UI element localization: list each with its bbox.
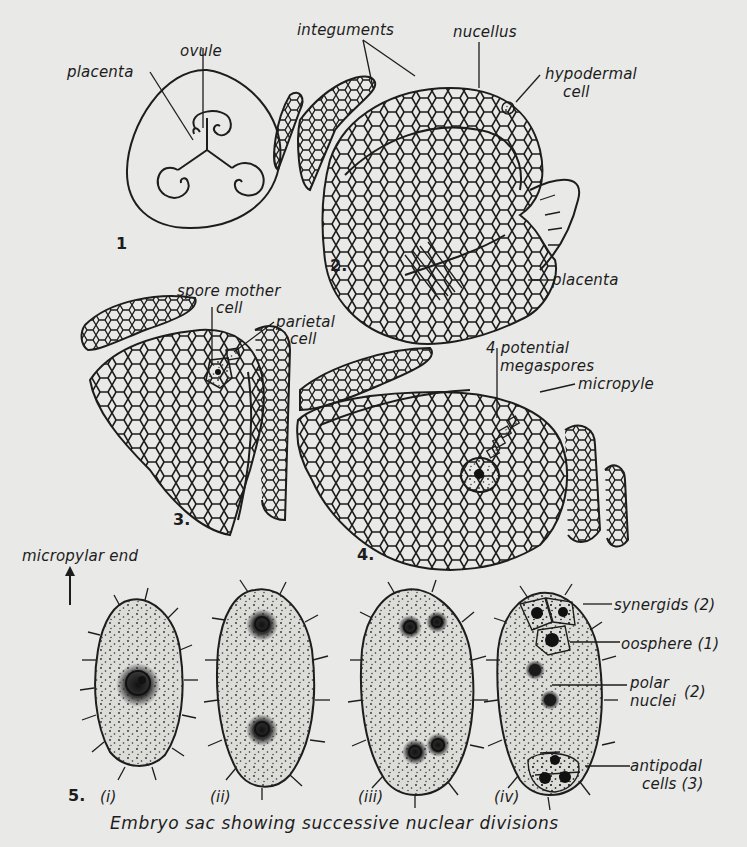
label-micropyle: micropyle: [578, 376, 654, 392]
label-integuments: integuments: [297, 22, 394, 38]
stage-label-iii: (iii): [358, 789, 383, 805]
stage-label-i: (i): [100, 789, 116, 805]
embryo-sac-stage-2: [204, 580, 330, 800]
figure-drawings: [0, 0, 747, 847]
label-placenta-2: placenta: [552, 272, 619, 288]
label-synergids: synergids (2): [614, 597, 715, 613]
label-parietal-cell-line2: cell: [290, 331, 317, 347]
embryo-sac-stage-4: [484, 584, 630, 810]
label-oosphere: oosphere (1): [621, 636, 719, 652]
panel-number-1: 1: [116, 236, 127, 252]
panel-number-4: 4.: [357, 547, 375, 563]
panel-number-2: 2.: [330, 258, 348, 274]
label-hypodermal-cell-line1: hypodermal: [545, 66, 637, 82]
label-parietal-cell-line1: parietal: [276, 314, 335, 330]
embryo-sac-stage-1: [80, 588, 198, 780]
panel-number-5: 5.: [68, 788, 86, 804]
label-hypodermal-cell-line2: cell: [563, 84, 590, 100]
panel-1-ovary-section: [127, 48, 280, 228]
label-potential-megaspores-line2: megaspores: [500, 358, 594, 374]
embryo-sac-stage-3: [348, 580, 488, 808]
label-polar-nuclei-count: (2): [684, 684, 706, 700]
panel-number-3: 3.: [173, 512, 191, 528]
label-ovule: ovule: [180, 43, 222, 59]
botanical-figure: ovule placenta 1 integuments nucellus hy…: [0, 0, 747, 847]
figure-caption: Embryo sac showing successive nuclear di…: [110, 815, 559, 831]
label-placenta-1: placenta: [67, 64, 134, 80]
label-polar-nuclei-line2: nuclei: [630, 693, 676, 709]
label-spore-mother-cell-line2: cell: [216, 300, 243, 316]
label-polar-nuclei-line1: polar: [630, 675, 669, 691]
stage-label-iv: (iv): [494, 789, 520, 805]
stage-label-ii: (ii): [210, 789, 231, 805]
label-potential-megaspores-line1: 4 potential: [486, 340, 569, 356]
label-spore-mother-cell-line1: spore mother: [177, 283, 281, 299]
label-antipodal-cells-line1: antipodal: [630, 758, 702, 774]
label-nucellus: nucellus: [453, 24, 517, 40]
label-micropylar-end: micropylar end: [22, 548, 138, 564]
panel-3-spore-mother-cell: [82, 296, 290, 535]
micropylar-direction-arrow: [65, 566, 75, 605]
panel-2-young-ovule: [274, 40, 579, 344]
label-antipodal-cells-line2: cells (3): [642, 776, 703, 792]
